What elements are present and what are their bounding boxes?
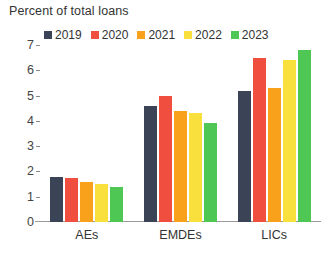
legend-swatch-icon <box>91 31 99 39</box>
bar-EMDEs-2020[interactable] <box>159 96 172 222</box>
y-tick-label: 7 <box>27 39 34 52</box>
y-tick-label: 2 <box>27 165 34 178</box>
bar-chart: Percent of total loans 20192020202120222… <box>0 0 329 257</box>
legend-item-2021[interactable]: 2021 <box>137 28 175 42</box>
bar-EMDEs-2021[interactable] <box>174 111 187 222</box>
plot-area: 01234567AEsEMDEsLICs <box>40 45 321 222</box>
y-tick-label: 6 <box>27 64 34 77</box>
legend-label: 2023 <box>242 28 269 42</box>
bar-EMDEs-2023[interactable] <box>204 123 217 222</box>
y-tick-label: 3 <box>27 140 34 153</box>
legend-item-2023[interactable]: 2023 <box>231 28 269 42</box>
legend-swatch-icon <box>231 31 239 39</box>
legend-label: 2020 <box>102 28 129 42</box>
bar-AEs-2020[interactable] <box>65 178 78 222</box>
legend-swatch-icon <box>184 31 192 39</box>
bar-group-LICs: LICs <box>227 45 321 222</box>
bar-LICs-2021[interactable] <box>268 88 281 222</box>
bar-LICs-2022[interactable] <box>283 60 296 222</box>
bar-AEs-2022[interactable] <box>95 184 108 222</box>
x-category-label: EMDEs <box>159 228 201 242</box>
y-tick-label: 0 <box>27 216 34 229</box>
y-tick-label: 5 <box>27 89 34 102</box>
chart-legend: 20192020202120222023 <box>44 28 269 42</box>
chart-title: Percent of total loans <box>9 4 129 18</box>
bar-AEs-2019[interactable] <box>50 177 63 223</box>
x-category-label: LICs <box>261 228 287 242</box>
y-tick-label: 1 <box>27 190 34 203</box>
bar-LICs-2020[interactable] <box>253 58 266 222</box>
bar-AEs-2023[interactable] <box>110 187 123 222</box>
bar-group-AEs: AEs <box>40 45 134 222</box>
legend-swatch-icon <box>44 31 52 39</box>
bar-group-EMDEs: EMDEs <box>134 45 228 222</box>
legend-swatch-icon <box>137 31 145 39</box>
legend-label: 2022 <box>195 28 222 42</box>
bar-AEs-2021[interactable] <box>80 182 93 222</box>
x-category-label: AEs <box>75 228 98 242</box>
bar-LICs-2023[interactable] <box>298 50 311 222</box>
y-tick-label: 4 <box>27 115 34 128</box>
legend-item-2019[interactable]: 2019 <box>44 28 82 42</box>
legend-label: 2019 <box>55 28 82 42</box>
legend-item-2020[interactable]: 2020 <box>91 28 129 42</box>
bar-EMDEs-2019[interactable] <box>144 106 157 222</box>
bar-EMDEs-2022[interactable] <box>189 113 202 222</box>
bar-LICs-2019[interactable] <box>238 91 251 222</box>
legend-item-2022[interactable]: 2022 <box>184 28 222 42</box>
legend-label: 2021 <box>148 28 175 42</box>
